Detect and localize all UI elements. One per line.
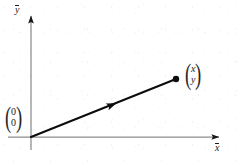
x-axis-overbar [215,143,219,144]
position-vector-line [31,79,176,137]
vector-diagram-figure: ( 0 0 ) ( x y ) y x [0,0,239,163]
vector-endpoint-dot [173,76,179,82]
origin-open-paren: ( [5,104,11,130]
point-open-paren: ( [185,61,191,87]
x-axis-label: x [215,142,219,153]
point-close-paren: ) [195,61,201,87]
point-vector-label: ( x y ) [183,61,203,87]
y-axis-overbar [15,5,19,6]
y-axis-label: y [15,4,19,15]
origin-close-paren: ) [16,104,22,130]
origin-vector-label: ( 0 0 ) [3,104,24,130]
